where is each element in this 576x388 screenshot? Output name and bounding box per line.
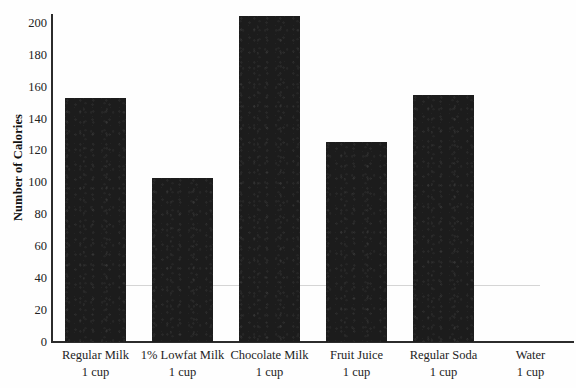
bar-chocolate-milk — [239, 16, 300, 342]
x-label-name: Fruit Juice — [330, 348, 383, 362]
x-label-1-lowfat-milk: 1% Lowfat Milk1 cup — [139, 347, 226, 381]
x-label-unit: 1 cup — [139, 364, 226, 381]
bars-layer — [0, 0, 576, 388]
x-label-unit: 1 cup — [226, 364, 313, 381]
bar-regular-soda — [413, 95, 474, 342]
bar-chart-figure: Number of Calories 020406080100120140160… — [0, 0, 576, 388]
bar-1-lowfat-milk — [152, 178, 213, 342]
x-label-water: Water1 cup — [487, 347, 574, 381]
x-label-unit: 1 cup — [487, 364, 574, 381]
bar-regular-milk — [65, 98, 126, 342]
x-label-unit: 1 cup — [52, 364, 139, 381]
x-label-name: 1% Lowfat Milk — [141, 348, 224, 362]
x-label-chocolate-milk: Chocolate Milk1 cup — [226, 347, 313, 381]
x-label-unit: 1 cup — [313, 364, 400, 381]
x-label-name: Chocolate Milk — [230, 348, 308, 362]
bar-fruit-juice — [326, 142, 387, 342]
x-label-regular-milk: Regular Milk1 cup — [52, 347, 139, 381]
x-label-name: Regular Soda — [410, 348, 478, 362]
x-label-fruit-juice: Fruit Juice1 cup — [313, 347, 400, 381]
x-axis-category-labels: Regular Milk1 cup1% Lowfat Milk1 cupChoc… — [0, 347, 576, 388]
x-label-name: Regular Milk — [62, 348, 129, 362]
x-label-unit: 1 cup — [400, 364, 487, 381]
x-label-name: Water — [516, 348, 546, 362]
x-label-regular-soda: Regular Soda1 cup — [400, 347, 487, 381]
